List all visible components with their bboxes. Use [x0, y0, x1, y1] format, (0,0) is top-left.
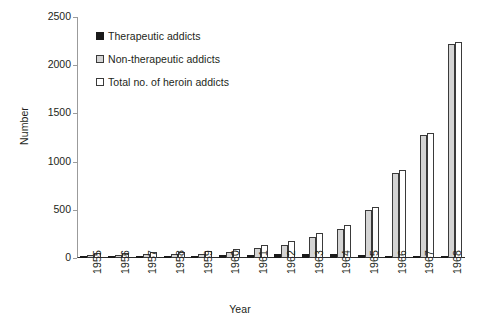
bar [358, 255, 365, 258]
legend-swatch-icon [96, 55, 104, 63]
x-axis-tick-cell: 1955 [77, 262, 105, 304]
x-axis-tick-cell: 1963 [299, 262, 327, 304]
x-axis-tick-cell: 1956 [105, 262, 133, 304]
bar [247, 255, 254, 258]
bar-group [354, 17, 382, 258]
bar-group [326, 17, 354, 258]
legend-swatch-icon [96, 78, 104, 86]
bar-group [271, 17, 299, 258]
x-axis-tick-cell: 1967 [410, 262, 438, 304]
x-axis-tick-label: 1959 [202, 250, 214, 274]
x-axis-tick-cell: 1959 [188, 262, 216, 304]
bar [274, 254, 281, 258]
bar [385, 256, 392, 258]
x-axis-tick-label: 1968 [451, 250, 463, 274]
bar [455, 42, 462, 258]
bar [302, 254, 309, 258]
x-axis-tick-cell: 1968 [437, 262, 465, 304]
x-axis-tick-cell: 1964 [326, 262, 354, 304]
bar [164, 256, 171, 258]
legend-label: Total no. of heroin addicts [108, 76, 229, 88]
bar-group [243, 17, 271, 258]
bar-group [437, 17, 465, 258]
y-axis-tick-label: 2000 [29, 59, 71, 70]
y-axis-title: Number [18, 86, 30, 166]
y-axis-tick-label: 1500 [29, 107, 71, 118]
x-axis-tick-cell: 1958 [160, 262, 188, 304]
x-axis-tick-label: 1958 [174, 250, 186, 274]
x-axis-tick-label: 1957 [146, 250, 158, 274]
bar [427, 133, 434, 258]
legend-label: Non-therapeutic addicts [108, 53, 220, 65]
bar-group [382, 17, 410, 258]
legend-label: Therapeutic addicts [108, 30, 201, 42]
x-axis-tick-label: 1964 [340, 250, 352, 274]
x-axis-tick-label: 1961 [257, 250, 269, 274]
x-axis-tick-cell: 1961 [243, 262, 271, 304]
x-axis-tick-label: 1962 [285, 250, 297, 274]
bar [448, 44, 455, 258]
x-axis-tick-cell: 1965 [354, 262, 382, 304]
x-axis-title: Year [0, 303, 480, 315]
legend-item: Total no. of heroin addicts [96, 76, 229, 88]
x-axis-tick-cell: 1962 [271, 262, 299, 304]
x-axis-tick-cell: 1966 [382, 262, 410, 304]
heroin-addicts-bar-chart: Number 05001000150020002500 195519561957… [0, 0, 480, 323]
bar [108, 256, 115, 258]
y-axis-tick-label: 1000 [29, 156, 71, 167]
x-axis-tick-label: 1963 [313, 250, 325, 274]
x-axis-tick-label: 1965 [368, 250, 380, 274]
y-axis-tick-label: 500 [29, 204, 71, 215]
bar-group [410, 17, 438, 258]
bar [219, 255, 226, 258]
y-axis-tick-label: 0 [29, 252, 71, 263]
legend-item: Non-therapeutic addicts [96, 53, 229, 65]
bar [80, 256, 87, 258]
y-axis-tick-label: 2500 [29, 11, 71, 22]
bar [399, 170, 406, 258]
y-axis-tick-mark [73, 258, 77, 259]
legend-swatch-icon [96, 32, 104, 40]
x-axis-tick-labels: 1955195619571958195919601961196219631964… [77, 262, 465, 304]
bar [413, 256, 420, 258]
bar [420, 135, 427, 258]
bar [136, 256, 143, 258]
x-axis-tick-label: 1960 [229, 250, 241, 274]
legend-item: Therapeutic addicts [96, 30, 229, 42]
x-axis-tick-label: 1967 [423, 250, 435, 274]
x-axis-tick-cell: 1957 [132, 262, 160, 304]
x-axis-tick-label: 1956 [119, 250, 131, 274]
bar [392, 173, 399, 258]
bar-group [299, 17, 327, 258]
x-axis-tick-label: 1955 [91, 250, 103, 274]
bar [330, 254, 337, 258]
chart-legend: Therapeutic addictsNon-therapeutic addic… [96, 30, 229, 99]
x-axis-tick-label: 1966 [396, 250, 408, 274]
bar [441, 256, 448, 258]
bar [191, 256, 198, 258]
x-axis-tick-cell: 1960 [216, 262, 244, 304]
